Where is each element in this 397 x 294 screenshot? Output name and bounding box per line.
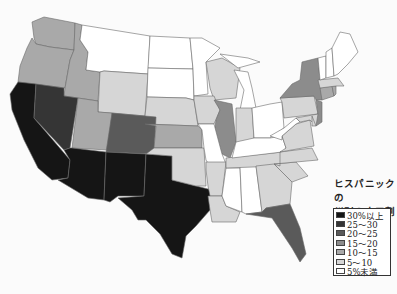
state-ct	[320, 86, 334, 100]
legend-title-line-1: ヒスパニックの	[334, 177, 396, 205]
legend-swatch	[336, 268, 345, 274]
legend-swatch	[336, 259, 345, 265]
state-sd	[147, 68, 194, 100]
legend-swatch	[336, 230, 345, 236]
legend-item: 5%未満	[336, 266, 388, 275]
legend-swatch	[336, 221, 345, 227]
state-nd	[148, 36, 193, 69]
legend-swatch	[336, 240, 345, 246]
legend: 30%以上 25～30 20～25 15～20 10～15 5～10 5%未満	[333, 208, 391, 276]
state-ny	[280, 58, 322, 100]
legend-label: 5%未満	[347, 265, 379, 277]
state-mt	[80, 25, 150, 74]
legend-swatch	[336, 212, 345, 218]
state-wy	[98, 71, 148, 116]
state-co	[106, 113, 156, 154]
state-me	[332, 32, 358, 76]
state-fl	[246, 204, 306, 262]
state-pa	[280, 96, 318, 118]
state-nm	[104, 152, 146, 202]
legend-swatch	[336, 249, 345, 255]
